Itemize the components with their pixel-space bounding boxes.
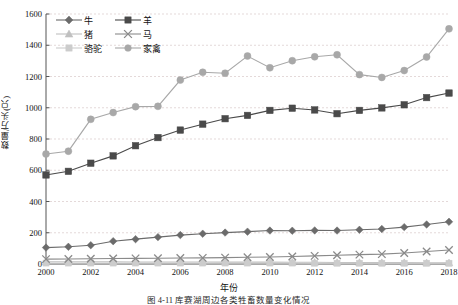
data-point-square — [423, 94, 429, 100]
data-point-square-light — [267, 260, 273, 266]
y-tick-label: 1000 — [8, 103, 42, 113]
data-point-square-light — [334, 260, 340, 266]
data-point-square — [244, 112, 250, 118]
data-point-circle — [378, 74, 385, 81]
data-point-square — [289, 105, 295, 111]
data-point-diamond — [266, 227, 273, 234]
data-point-diamond — [154, 233, 161, 240]
y-tick-label: 800 — [8, 134, 42, 144]
data-point-circle — [177, 77, 184, 84]
legend-item-牛[interactable]: 牛 — [56, 13, 115, 27]
data-point-square — [199, 121, 205, 127]
data-point-square — [110, 153, 116, 159]
data-point-square-light — [200, 260, 206, 266]
data-point-square — [356, 107, 362, 113]
data-point-circle — [289, 57, 296, 64]
data-point-square-light — [356, 260, 362, 266]
data-point-circle — [87, 116, 94, 123]
x-tick-label: 2010 — [261, 267, 278, 277]
data-point-square-light — [244, 260, 250, 266]
legend-marker-icon — [56, 43, 82, 53]
data-point-square-light — [289, 260, 295, 266]
legend-marker-icon — [115, 15, 141, 25]
legend-marker-icon — [115, 43, 141, 53]
data-point-square — [155, 134, 161, 140]
legend-label: 牛 — [84, 14, 93, 27]
data-point-circle — [222, 70, 229, 77]
data-point-square-light — [66, 45, 72, 51]
data-point-circle — [110, 109, 117, 116]
x-tick-label: 2008 — [217, 267, 234, 277]
data-point-diamond — [87, 242, 94, 249]
data-point-circle — [132, 103, 139, 110]
x-tick-label: 2000 — [38, 267, 55, 277]
data-point-square — [125, 17, 131, 23]
legend-marker-icon — [56, 29, 82, 39]
legend-label: 羊 — [143, 14, 152, 27]
data-point-diamond — [199, 230, 206, 237]
series-骆驼 — [43, 260, 452, 266]
data-point-square-light — [379, 260, 385, 266]
data-point-diamond — [65, 243, 72, 250]
y-tick-label: 1200 — [8, 72, 42, 82]
series-line — [46, 93, 449, 175]
data-point-circle — [423, 53, 430, 60]
x-tick-label: 2018 — [441, 267, 458, 277]
legend-item-马[interactable]: 马 — [115, 27, 174, 41]
legend-label: 猪 — [84, 28, 93, 41]
data-point-diamond — [132, 235, 139, 242]
y-tick-label: 600 — [8, 165, 42, 175]
legend-label: 家禽 — [143, 42, 161, 55]
y-tick-label: 400 — [8, 197, 42, 207]
legend-item-猪[interactable]: 猪 — [56, 27, 115, 41]
data-point-square — [132, 142, 138, 148]
data-point-diamond — [311, 227, 318, 234]
data-point-circle — [266, 64, 273, 71]
data-point-diamond — [445, 218, 452, 225]
data-point-square — [88, 160, 94, 166]
data-point-circle — [125, 45, 132, 52]
data-point-square — [334, 110, 340, 116]
data-point-circle — [356, 71, 363, 78]
data-point-circle — [446, 25, 453, 32]
data-point-square-light — [401, 260, 407, 266]
legend-item-骆驼[interactable]: 骆驼 — [56, 41, 115, 55]
x-tick-label: 2016 — [396, 267, 413, 277]
legend-label: 骆驼 — [84, 42, 102, 55]
figure-caption: 图 4-11 库赛湖周边各类牲畜数量变化情况 — [0, 293, 457, 305]
data-point-square — [446, 90, 452, 96]
data-point-square-light — [312, 260, 318, 266]
legend-item-羊[interactable]: 羊 — [115, 13, 174, 27]
series-牛 — [42, 218, 452, 251]
data-point-circle — [401, 67, 408, 74]
data-point-circle — [65, 148, 72, 155]
data-point-diamond — [400, 223, 407, 230]
y-tick-label: 1600 — [8, 9, 42, 19]
data-point-square — [65, 168, 71, 174]
data-point-circle — [311, 53, 318, 60]
x-tick-label: 2014 — [351, 267, 368, 277]
data-point-square — [177, 127, 183, 133]
data-point-diamond — [289, 227, 296, 234]
data-point-square-light — [446, 260, 452, 266]
legend-marker-icon — [56, 15, 82, 25]
data-point-square-light — [424, 260, 430, 266]
x-tick-label: 2004 — [127, 267, 144, 277]
legend-item-家禽[interactable]: 家禽 — [115, 41, 174, 55]
data-point-diamond — [423, 221, 430, 228]
data-point-diamond — [221, 229, 228, 236]
y-tick-label: 200 — [8, 228, 42, 238]
series-羊 — [43, 90, 452, 178]
data-point-circle — [43, 151, 50, 158]
y-tick-label: 1400 — [8, 40, 42, 50]
data-point-circle — [244, 53, 251, 60]
data-point-diamond — [109, 237, 116, 244]
data-point-diamond — [378, 225, 385, 232]
y-axis-ticks: 02004006008001000120014001600 — [4, 0, 42, 301]
data-point-circle — [154, 103, 161, 110]
data-point-diamond — [244, 228, 251, 235]
x-tick-label: 2002 — [82, 267, 99, 277]
data-point-square — [311, 107, 317, 113]
chart-legend: 牛羊猪马骆驼家禽 — [56, 13, 174, 55]
